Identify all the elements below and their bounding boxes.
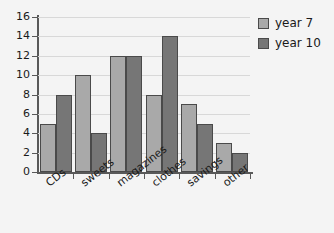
plot-area — [38, 17, 250, 172]
chart-legend: year 7year 10 — [258, 13, 330, 53]
y-tick-label: 12 — [4, 50, 30, 61]
bar — [56, 95, 72, 173]
y-tick-mark — [32, 17, 37, 18]
legend-swatch-icon — [258, 18, 269, 29]
legend-item: year 10 — [258, 33, 330, 53]
bar-chart: 0246810121416 CDssweetsmagazinesclothess… — [0, 0, 334, 233]
y-tick-label: 0 — [4, 166, 30, 177]
x-tick-mark — [73, 174, 74, 179]
x-tick-mark — [250, 174, 251, 179]
y-tick-mark — [32, 56, 37, 57]
y-tick-label: 14 — [4, 30, 30, 41]
x-tick-mark — [215, 174, 216, 179]
y-tick-label: 10 — [4, 69, 30, 80]
y-tick-mark — [32, 114, 37, 115]
y-tick-label: 16 — [4, 11, 30, 22]
bar — [75, 75, 91, 172]
y-tick-label: 4 — [4, 127, 30, 138]
x-tick-mark — [109, 174, 110, 179]
bar — [110, 56, 126, 172]
legend-swatch-icon — [258, 38, 269, 49]
legend-item: year 7 — [258, 13, 330, 33]
y-tick-mark — [32, 172, 37, 173]
y-tick-label: 2 — [4, 147, 30, 158]
y-tick-label: 8 — [4, 89, 30, 100]
y-tick-mark — [32, 133, 37, 134]
bar — [126, 56, 142, 172]
legend-label: year 10 — [275, 37, 321, 49]
y-tick-mark — [32, 153, 37, 154]
x-tick-mark — [179, 174, 180, 179]
x-tick-mark — [144, 174, 145, 179]
x-axis-line — [37, 172, 253, 174]
legend-label: year 7 — [275, 17, 313, 29]
y-tick-label: 6 — [4, 108, 30, 119]
bar — [40, 124, 56, 172]
y-tick-mark — [32, 95, 37, 96]
y-tick-mark — [32, 75, 37, 76]
y-tick-mark — [32, 36, 37, 37]
